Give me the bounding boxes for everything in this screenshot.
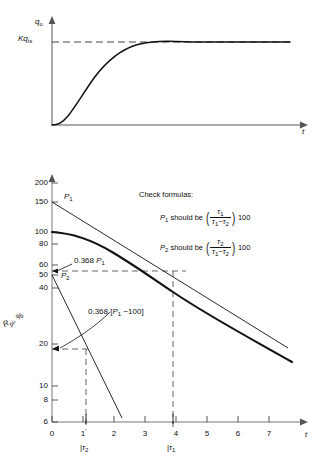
xtick-3: 3	[138, 429, 152, 438]
top-y-axis-label: qo	[35, 17, 43, 27]
ytick-10: 10	[24, 381, 48, 390]
tau2-mark-label: |τ2	[80, 443, 88, 453]
series-label-p1: P1	[64, 192, 73, 202]
fraction-p1: τ1 τ1−τ2	[210, 208, 231, 228]
ytick-8: 8	[24, 395, 48, 404]
xtick-4: 4	[169, 429, 183, 438]
top-x-axis-label: t	[302, 127, 304, 136]
series-label-p2: P2	[61, 271, 70, 281]
xtick-7: 7	[262, 429, 276, 438]
ytick-60: 60	[24, 260, 48, 269]
tau1-mark-label: |τ1	[167, 443, 175, 453]
ytick-40: 40	[24, 283, 48, 292]
ytick-20: 20	[24, 339, 48, 348]
bottom-x-axis-label: t	[305, 430, 307, 439]
xtick-1: 1	[76, 429, 90, 438]
check-formula-p1: P1 should be ( τ1 τ1−τ2 ) 100	[160, 208, 250, 228]
top-chart-canvas	[0, 0, 328, 152]
ytick-100: 100	[24, 227, 48, 236]
bottom-x-axis-arrow	[300, 419, 308, 426]
xtick-0: 0	[45, 429, 59, 438]
ytick-6: 6	[24, 417, 48, 426]
paren-close-p2: )	[232, 241, 235, 255]
ytick-50: 50	[24, 270, 48, 279]
paren-open-p1: (	[206, 211, 209, 225]
paren-close-p1: )	[232, 211, 235, 225]
leader-0368-p1	[57, 264, 72, 271]
figure-container: qo Kqis t	[0, 0, 328, 472]
leader-arrowhead-0368-p1-minus-100	[52, 346, 59, 352]
top-asymptote-label: Kqis	[18, 34, 32, 44]
ytick-150: 150	[24, 197, 48, 206]
annotation-0368-p1: 0.368 P1	[74, 256, 105, 266]
top-y-axis-arrow	[49, 16, 56, 24]
paren-open-p2: (	[206, 241, 209, 255]
bottom-y-axis-arrow	[49, 174, 56, 182]
check-formulas-heading: Check formulas:	[139, 190, 193, 199]
fraction-p2: τ2 τ1−τ2	[210, 238, 231, 258]
bottom-y-ticks	[52, 183, 58, 422]
ytick-80: 80	[24, 239, 48, 248]
xtick-2: 2	[107, 429, 121, 438]
top-step-response-curve	[52, 41, 290, 125]
check-formula-p2: P2 should be ( τ2 τ1−τ2 ) 100	[160, 238, 250, 258]
xtick-6: 6	[231, 429, 245, 438]
bottom-x-ticks	[52, 416, 269, 422]
xtick-5: 5	[200, 429, 214, 438]
leader-arrowhead-0368-p1	[52, 268, 58, 273]
annotation-0368-p1-minus-100: 0.368 [P1 −100]	[88, 307, 144, 317]
ytick-200: 200	[24, 178, 48, 187]
